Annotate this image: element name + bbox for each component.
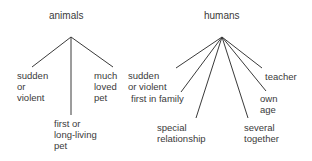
- line-humans-sudden: [176, 37, 222, 68]
- animals-child-much-loved: much loved pet: [94, 70, 117, 103]
- humans-child-several-together: several together: [244, 122, 279, 144]
- humans-child-first-in-family: first in family: [131, 93, 184, 104]
- line-humans-several: [222, 37, 248, 118]
- humans-child-teacher: teacher: [265, 71, 297, 82]
- line-humans-first-family: [181, 37, 222, 92]
- animals-root-label: animals: [49, 10, 83, 21]
- humans-root-label: humans: [204, 10, 240, 21]
- line-animals-much-loved: [71, 37, 113, 67]
- animals-child-first-long-living: first or long-living pet: [54, 118, 97, 151]
- line-animals-sudden: [32, 37, 71, 67]
- humans-child-own-age: own age: [260, 93, 277, 115]
- line-humans-special: [196, 37, 222, 118]
- humans-child-special-relationship: special relationship: [157, 122, 206, 144]
- humans-child-sudden-violent: sudden or violent: [128, 70, 167, 92]
- line-humans-own-age: [222, 37, 266, 91]
- line-humans-teacher: [222, 37, 262, 68]
- animals-child-sudden-violent: sudden or violent: [17, 70, 48, 103]
